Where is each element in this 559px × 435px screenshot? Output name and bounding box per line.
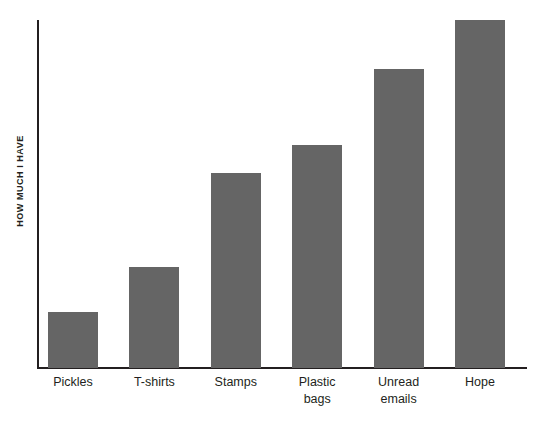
x-tick-label-hope: Hope bbox=[435, 374, 525, 391]
bar-unread-emails bbox=[374, 69, 424, 368]
x-axis-tick-labels: PicklesT-shirtsStampsPlastic bagsUnread … bbox=[39, 374, 527, 432]
x-tick-label-t-shirts: T-shirts bbox=[109, 374, 199, 391]
x-tick-label-stamps: Stamps bbox=[191, 374, 281, 391]
y-axis-title: HOW MUCH I HAVE bbox=[15, 83, 25, 279]
bar-pickles bbox=[48, 312, 98, 368]
bar-t-shirts bbox=[129, 267, 179, 368]
bar-hope bbox=[455, 20, 505, 368]
x-tick-label-pickles: Pickles bbox=[28, 374, 118, 391]
bar-stamps bbox=[211, 173, 261, 368]
bar-chart-figure: HOW MUCH I HAVE PicklesT-shirtsStampsPla… bbox=[0, 0, 559, 435]
x-tick-label-plastic-bags: Plastic bags bbox=[272, 374, 362, 408]
bar-plastic-bags bbox=[292, 145, 342, 368]
plot-area bbox=[39, 20, 527, 368]
x-tick-label-unread-emails: Unread emails bbox=[354, 374, 444, 408]
y-axis-title-container: HOW MUCH I HAVE bbox=[0, 0, 34, 368]
